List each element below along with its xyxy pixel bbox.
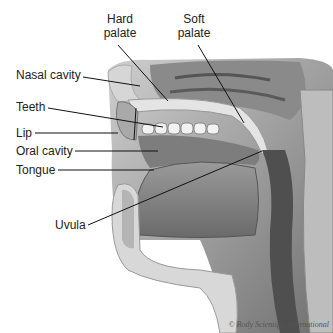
anatomy-illustration: Hard palate Soft palate Nasal cavity Tee… [0,0,333,333]
label-soft-palate: Soft palate [174,12,214,40]
label-soft-palate-line1: Soft [174,12,214,26]
label-lip: Lip [16,126,32,140]
label-hard-palate: Hard palate [100,12,140,40]
label-soft-palate-line2: palate [174,26,214,40]
label-teeth: Teeth [16,100,45,114]
label-uvula: Uvula [55,218,86,232]
label-hard-palate-line2: palate [100,26,140,40]
copyright-credit: © Body Scientific International [229,320,330,329]
tongue [136,162,259,238]
label-nasal-cavity: Nasal cavity [16,68,81,82]
label-tongue: Tongue [16,163,55,177]
label-hard-palate-line1: Hard [100,12,140,26]
lower-lip [122,190,134,249]
label-oral-cavity: Oral cavity [16,144,73,158]
